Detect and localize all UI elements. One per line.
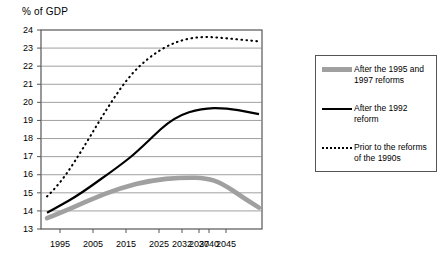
legend: After the 1995 and 1997 reforms After th…	[315, 55, 437, 172]
x-tick-label: 2015	[111, 240, 141, 249]
y-tick-label: 16	[13, 170, 33, 179]
solid-black-line-swatch-icon	[322, 108, 352, 118]
x-tick-label: 2045	[211, 240, 241, 249]
x-tick-label: 2005	[78, 240, 108, 249]
thick-gray-line-swatch-icon	[322, 67, 352, 80]
y-tick-label: 13	[13, 225, 33, 234]
chart-container: % of GDP	[0, 0, 444, 274]
legend-item-after-1992: After the 1992 reform	[322, 103, 434, 125]
legend-item-label: After the 1995 and 1997 reforms	[352, 64, 434, 86]
y-tick-label: 21	[13, 80, 33, 89]
y-tick-label: 15	[13, 189, 33, 198]
y-tick-label: 18	[13, 134, 33, 143]
y-tick-label: 22	[13, 62, 33, 71]
legend-item-label: After the 1992 reform	[352, 103, 434, 125]
legend-item-label: Prior to the reforms of the 1990s	[352, 142, 434, 164]
y-tick-label: 17	[13, 152, 33, 161]
x-axis-ticks	[60, 229, 226, 233]
y-tick-label: 24	[13, 26, 33, 35]
x-tick-label: 1995	[45, 240, 75, 249]
legend-item-prior-reforms: Prior to the reforms of the 1990s	[322, 142, 434, 164]
y-tick-label: 14	[13, 207, 33, 216]
dotted-black-line-swatch-icon	[322, 147, 352, 157]
legend-item-after-1995-1997: After the 1995 and 1997 reforms	[322, 64, 434, 86]
y-tick-label: 23	[13, 44, 33, 53]
y-tick-label: 19	[13, 116, 33, 125]
y-tick-label: 20	[13, 98, 33, 107]
